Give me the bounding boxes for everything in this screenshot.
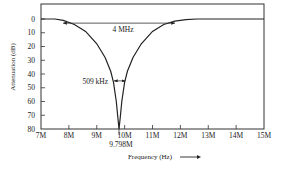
y-tick-label: 80 — [28, 125, 36, 134]
y-tick-label: 60 — [28, 97, 36, 106]
x-tick-label: 11M — [146, 131, 160, 140]
x-axis-ticks: 7M8M9M10M11M12M13M14M15M — [36, 125, 272, 140]
x-tick-label: 13M — [201, 131, 216, 140]
y-tick-label: 0 — [31, 15, 35, 24]
x-tick-label: 10M — [118, 131, 133, 140]
center-frequency-label: 9.798M — [109, 140, 133, 149]
y-tick-label: 20 — [28, 42, 36, 51]
x-tick-label: 14M — [229, 131, 244, 140]
attenuation-chart: 01020304050607080 7M8M9M10M11M12M13M14M1… — [0, 0, 286, 171]
y-tick-label: 10 — [28, 28, 36, 37]
x-tick-label: 9M — [92, 131, 103, 140]
bandwidth-509khz-annotation: 509 kHz — [82, 77, 125, 86]
y-axis-title: Attenuation (dB) — [9, 43, 17, 91]
y-tick-label: 30 — [28, 56, 36, 65]
y-tick-label: 40 — [28, 70, 36, 79]
x-axis-title: Frequency (Hz) — [128, 153, 173, 161]
x-tick-label: 12M — [173, 131, 188, 140]
response-curve — [41, 19, 264, 129]
y-tick-label: 70 — [28, 111, 36, 120]
x-tick-label: 8M — [64, 131, 75, 140]
annotation-4mhz: 4 MHz — [113, 25, 135, 34]
y-axis-ticks: 01020304050607080 — [28, 15, 46, 134]
x-axis-arrow-icon — [180, 155, 201, 159]
x-tick-label: 7M — [36, 131, 47, 140]
y-tick-label: 50 — [28, 83, 36, 92]
x-tick-label: 15M — [257, 131, 272, 140]
annotation-509khz: 509 kHz — [82, 77, 108, 86]
